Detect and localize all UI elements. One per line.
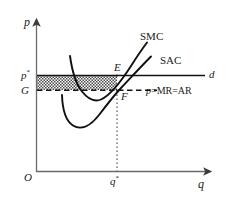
x-axis-label: q [198,178,204,190]
sac-curve [62,57,151,128]
mr-ar-rest: =MR=AR [151,85,192,96]
quantity-star-sup: * [116,174,120,182]
quantity-star-label: q* [110,175,119,187]
price-star-sup: * [27,68,31,76]
economics-cost-curve-figure: p q O p* G q* SMC SAC d p=MR=AR E F [0,0,227,199]
demand-label: d [209,69,215,80]
point-f-label: F [121,91,128,102]
marginal-revenue-label: p=MR=AR [146,86,192,96]
sac-label: SAC [160,55,181,66]
smc-label: SMC [140,31,163,42]
price-g-label: G [21,85,29,96]
y-axis-label: p [24,16,30,28]
point-e-marker [116,75,118,77]
point-f-marker [116,89,118,91]
price-star-label: p* [21,69,30,81]
origin-label: O [24,172,32,183]
point-e-label: E [114,62,121,73]
chart-canvas [0,0,227,199]
